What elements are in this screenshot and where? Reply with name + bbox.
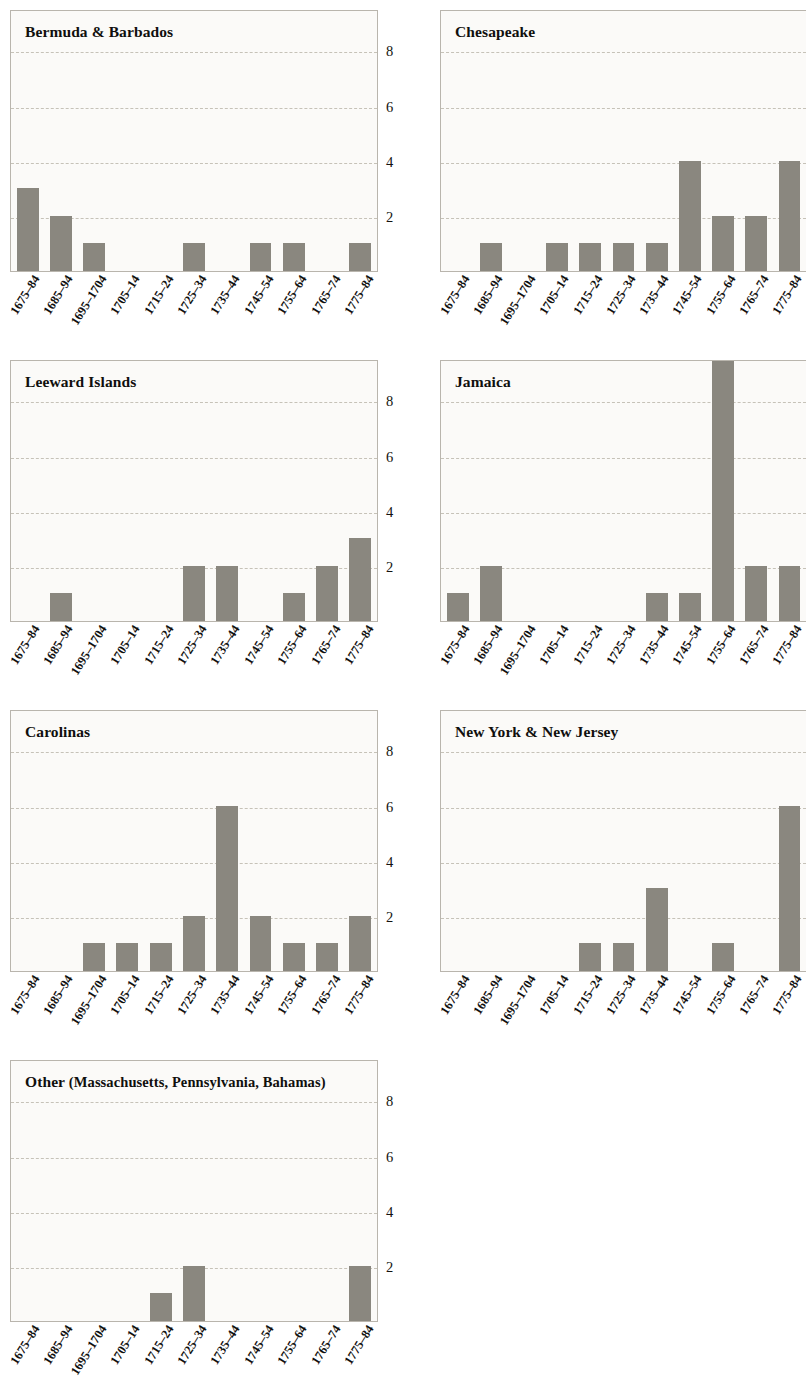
x-tick-label-text: 1745–54 — [670, 623, 706, 668]
bar — [779, 806, 801, 971]
bar-slot — [310, 1061, 343, 1321]
x-tick-label-text: 1775–84 — [342, 1323, 378, 1368]
x-tick-slot: 1705–14 — [110, 974, 143, 1050]
x-tick-slot: 1755–64 — [706, 274, 739, 350]
bar — [712, 216, 734, 271]
bar-slot — [11, 11, 44, 271]
bar-slot — [673, 361, 706, 621]
bar — [745, 216, 767, 271]
bar — [613, 943, 635, 971]
x-tick-label-text: 1745–54 — [241, 623, 277, 668]
x-tick-slot: 1735–44 — [211, 974, 244, 1050]
x-tick-slot: 1735–44 — [211, 274, 244, 350]
bar-slot — [574, 11, 607, 271]
plot-area: Other (Massachusetts, Pennsylvania, Baha… — [10, 1060, 378, 1322]
bar-slot — [740, 11, 773, 271]
x-tick-slot: 1735–44 — [211, 624, 244, 700]
bar-slot — [44, 11, 77, 271]
x-axis-labels: 1675–841685–941695–17041705–141715–24172… — [10, 274, 378, 350]
y-tick-label: 4 — [386, 853, 406, 870]
chart-panel: Leeward Islands1675–841685–941695–170417… — [0, 350, 398, 700]
x-tick-label-text: 1745–54 — [670, 273, 706, 318]
y-tick-label: 6 — [386, 1148, 406, 1165]
x-tick-label-text: 1715–24 — [141, 1323, 177, 1368]
x-tick-slot: 1725–34 — [177, 624, 210, 700]
bar-series — [441, 711, 806, 971]
x-tick-label-text: 1755–64 — [275, 1323, 311, 1368]
bar — [17, 188, 39, 271]
bar-slot — [640, 11, 673, 271]
x-tick-slot: 1745–54 — [244, 1324, 277, 1382]
bar-slot — [144, 361, 177, 621]
chart-panel: Chesapeake1675–841685–941695–17041705–14… — [430, 0, 810, 350]
y-tick-label: 6 — [386, 448, 406, 465]
bar — [50, 593, 72, 621]
bar-slot — [177, 11, 210, 271]
x-tick-label-text: 1725–34 — [175, 623, 211, 668]
bar — [712, 360, 734, 621]
y-tick-label: 8 — [386, 43, 406, 60]
x-tick-slot: 1755–64 — [706, 624, 739, 700]
bar-slot — [111, 711, 144, 971]
x-tick-slot: 1755–64 — [706, 974, 739, 1050]
x-tick-slot: 1735–44 — [211, 1324, 244, 1382]
bar-slot — [44, 1061, 77, 1321]
x-tick-label-text: 1765–74 — [737, 623, 773, 668]
bar-slot — [44, 361, 77, 621]
x-tick-label-text: 1745–54 — [241, 973, 277, 1018]
x-tick-label-text: 1715–24 — [570, 973, 606, 1018]
y-tick-label: 6 — [386, 798, 406, 815]
x-tick-slot: 1705–14 — [540, 974, 573, 1050]
bar — [150, 1293, 172, 1321]
y-tick-label: 8 — [386, 393, 406, 410]
bar — [779, 566, 801, 621]
x-tick-slot: 1675–84 — [440, 974, 473, 1050]
x-tick-slot: 1735–44 — [640, 624, 673, 700]
x-tick-slot: 1675–84 — [440, 274, 473, 350]
plot-area: New York & New Jersey — [440, 710, 806, 972]
bar-slot — [310, 361, 343, 621]
x-tick-label-text: 1675–84 — [7, 623, 43, 668]
x-tick-slot: 1715–24 — [573, 274, 606, 350]
x-tick-label-text: 1725–34 — [175, 973, 211, 1018]
bar-slot — [44, 711, 77, 971]
x-axis-labels: 1675–841685–941695–17041705–141715–24172… — [440, 974, 806, 1050]
bar-slot — [11, 711, 44, 971]
x-tick-slot: 1745–54 — [673, 624, 706, 700]
bar-slot — [507, 711, 540, 971]
bar — [480, 566, 502, 621]
x-tick-label-text: 1705–14 — [108, 623, 144, 668]
x-tick-slot: 1725–34 — [177, 274, 210, 350]
x-tick-label-text: 1775–84 — [770, 973, 806, 1018]
y-tick-label: 2 — [386, 558, 406, 575]
bar — [216, 566, 238, 621]
bar-slot — [344, 361, 377, 621]
x-tick-label-text: 1745–54 — [670, 973, 706, 1018]
bar-series — [11, 361, 377, 621]
bar-slot — [111, 11, 144, 271]
bar-series — [11, 1061, 377, 1321]
bar-slot — [78, 361, 111, 621]
x-tick-slot: 1765–74 — [311, 974, 344, 1050]
x-tick-label-text: 1685–94 — [41, 623, 77, 668]
x-tick-slot: 1775–84 — [773, 274, 806, 350]
bar — [83, 243, 105, 271]
x-tick-label-text: 1765–74 — [308, 623, 344, 668]
bar-slot — [244, 711, 277, 971]
x-tick-label-text: 1775–84 — [342, 623, 378, 668]
bar — [283, 593, 305, 621]
x-axis-labels: 1675–841685–941695–17041705–141715–24172… — [440, 624, 806, 700]
x-tick-label-text: 1725–34 — [603, 973, 639, 1018]
bar — [183, 243, 205, 271]
x-tick-slot: 1695–1704 — [77, 974, 110, 1050]
x-tick-label-text: 1705–14 — [108, 273, 144, 318]
x-tick-slot: 1725–34 — [177, 974, 210, 1050]
x-tick-slot: 1705–14 — [110, 274, 143, 350]
bar-slot — [441, 11, 474, 271]
x-tick-label-text: 1735–44 — [208, 973, 244, 1018]
x-tick-slot: 1675–84 — [10, 624, 43, 700]
x-tick-slot: 1775–84 — [345, 1324, 378, 1382]
x-tick-slot: 1705–14 — [110, 1324, 143, 1382]
x-tick-slot: 1765–74 — [739, 274, 772, 350]
bar — [447, 593, 469, 621]
